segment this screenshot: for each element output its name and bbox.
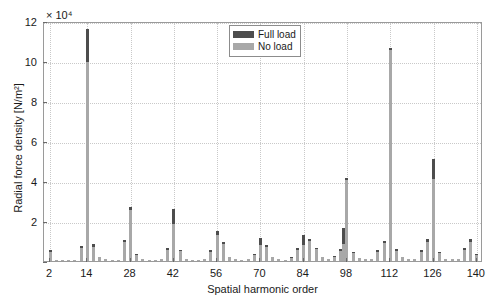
figure-container: × 10⁴ Radial force density [N/m²] 246810…: [0, 0, 498, 305]
x-tick-mark: [303, 258, 304, 262]
bar-segment-no-load: [92, 247, 95, 261]
bar-harmonic-40: [166, 248, 169, 261]
bar-segment-no-load: [228, 257, 231, 261]
bar-segment-full-load: [420, 250, 423, 252]
bar-segment-no-load: [123, 242, 126, 261]
x-tick-label: 28: [110, 267, 150, 279]
bar-harmonic-64: [240, 260, 243, 261]
bar-segment-full-load: [426, 239, 429, 242]
bar-harmonic-90: [321, 257, 324, 261]
bar-segment-full-load: [80, 246, 83, 248]
bar-segment-no-load: [345, 180, 348, 261]
y-tick-label: 12: [7, 16, 37, 28]
bar-harmonic-36: [154, 260, 157, 261]
y-tick-label: 4: [7, 176, 37, 188]
bar-harmonic-120: [413, 259, 416, 261]
bar-segment-no-load: [383, 243, 386, 261]
bar-segment-full-load: [265, 245, 268, 247]
bar-harmonic-76: [277, 259, 280, 261]
gridline-horizontal: [44, 103, 481, 104]
bar-segment-no-load: [197, 260, 200, 261]
bar-harmonic-100: [352, 252, 355, 261]
bar-segment-no-load: [67, 260, 70, 261]
bar-harmonic-48: [191, 260, 194, 261]
bar-harmonic-42: [172, 209, 175, 261]
bar-segment-no-load: [444, 259, 447, 261]
bar-segment-no-load: [166, 250, 169, 261]
y-tick-label: 10: [7, 56, 37, 68]
bar-harmonic-8: [67, 260, 70, 261]
bar-segment-no-load: [172, 224, 175, 261]
bar-segment-full-load: [209, 250, 212, 252]
bar-segment-no-load: [358, 258, 361, 261]
bar-harmonic-94: [333, 256, 336, 261]
gridline-horizontal: [44, 23, 481, 24]
bar-segment-no-load: [284, 260, 287, 261]
bar-harmonic-52: [203, 259, 206, 261]
x-tick-label: 140: [456, 267, 496, 279]
bar-segment-no-load: [376, 252, 379, 261]
bar-segment-full-load: [222, 242, 225, 244]
bar-segment-no-load: [420, 252, 423, 261]
bar-harmonic-106: [370, 259, 373, 261]
y-tick-mark: [43, 22, 47, 23]
bar-segment-no-load: [111, 260, 114, 261]
bar-harmonic-16: [92, 244, 95, 261]
bar-segment-no-load: [389, 50, 392, 261]
bar-segment-no-load: [407, 259, 410, 261]
bar-harmonic-104: [364, 259, 367, 261]
bar-harmonic-4: [55, 260, 58, 261]
bar-segment-no-load: [413, 259, 416, 261]
gridline-horizontal: [44, 223, 481, 224]
bar-segment-full-load: [345, 178, 348, 180]
y-tick-mark: [43, 182, 47, 183]
x-tick-label: 84: [283, 267, 323, 279]
x-tick-mark: [216, 258, 217, 262]
bar-segment-full-load: [216, 231, 219, 235]
bar-harmonic-126: [432, 159, 435, 261]
bar-harmonic-10: [73, 260, 76, 261]
bar-segment-full-load: [475, 254, 478, 255]
bar-segment-full-load: [290, 257, 293, 258]
x-tick-label: 14: [66, 267, 106, 279]
bar-harmonic-30: [135, 254, 138, 261]
bar-harmonic-102: [358, 258, 361, 261]
bar-segment-no-load: [191, 260, 194, 261]
x-tick-label: 112: [369, 267, 409, 279]
x-tick-label: 126: [413, 267, 453, 279]
bar-harmonic-138: [469, 239, 472, 261]
bar-harmonic-18: [98, 257, 101, 261]
bar-harmonic-14: [86, 29, 89, 261]
bar-segment-full-load: [395, 249, 398, 251]
legend-swatch-full-load: [233, 31, 254, 38]
x-tick-mark: [433, 258, 434, 262]
plot-area: [43, 22, 482, 262]
bar-harmonic-124: [426, 239, 429, 261]
y-tick-label: 2: [7, 216, 37, 228]
bar-segment-no-load: [438, 253, 441, 261]
bar-segment-full-load: [86, 29, 89, 62]
bar-segment-full-load: [308, 239, 311, 241]
bar-segment-full-load: [129, 207, 132, 210]
bar-harmonic-32: [141, 259, 144, 261]
bar-segment-no-load: [148, 260, 151, 261]
gridline-horizontal: [44, 143, 481, 144]
bar-harmonic-82: [296, 248, 299, 261]
bar-harmonic-46: [185, 259, 188, 261]
bar-harmonic-78: [284, 260, 287, 261]
bar-segment-no-load: [179, 251, 182, 261]
bar-segment-full-load: [438, 252, 441, 253]
bar-segment-no-load: [401, 257, 404, 261]
bar-segment-full-load: [315, 248, 318, 249]
bar-segment-no-load: [117, 260, 120, 261]
bar-harmonic-112: [389, 48, 392, 261]
bar-segment-full-load: [172, 209, 175, 224]
bar-harmonic-92: [327, 259, 330, 261]
legend-swatch-no-load: [233, 43, 254, 50]
x-tick-label: 98: [326, 267, 366, 279]
gridline-vertical: [50, 23, 51, 261]
bar-segment-full-load: [179, 250, 182, 252]
bar-harmonic-34: [148, 260, 151, 261]
bar-segment-full-load: [469, 239, 472, 242]
bar-segment-no-load: [154, 260, 157, 261]
